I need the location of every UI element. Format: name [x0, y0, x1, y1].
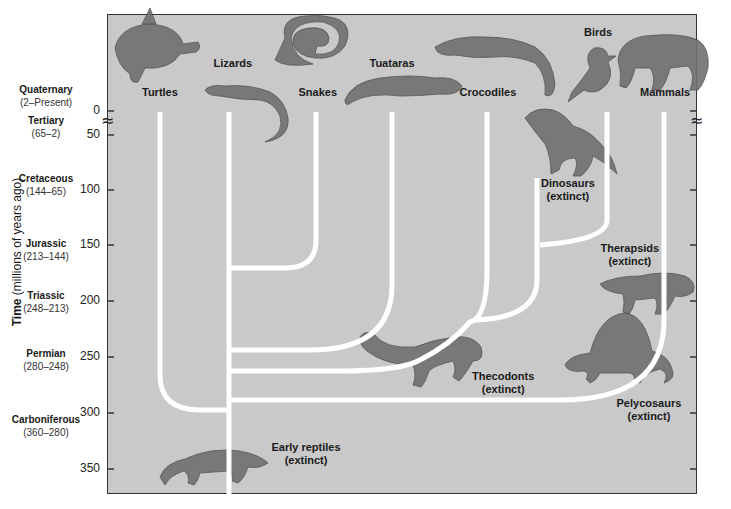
era-name: Cretaceous [0, 172, 92, 185]
extinct-note: (extinct) [601, 255, 660, 268]
snake-icon [275, 16, 348, 66]
taxon-name: Tuataras [370, 57, 415, 70]
era-label: Tertiary(65–2) [0, 114, 92, 140]
era-name: Tertiary [0, 114, 92, 127]
phylogenetic-tree [160, 112, 664, 494]
lizard-icon [205, 86, 288, 143]
era-label: Jurassic(213–144) [0, 237, 92, 263]
taxon-name: Turtles [142, 86, 178, 99]
branch-tuataras [229, 112, 392, 350]
taxon-name: Crocodiles [460, 86, 517, 99]
era-label: Quaternary(2–Present) [0, 83, 92, 109]
era-name: Triassic [0, 289, 92, 302]
taxon-name: Thecodonts [472, 370, 534, 383]
era-name: Quaternary [0, 83, 92, 96]
dimetrodon-icon [565, 313, 673, 383]
extinct-note: (extinct) [617, 410, 682, 423]
extinct-note: (extinct) [472, 383, 534, 396]
branch-turtles [160, 112, 229, 410]
branch-snakes [229, 112, 316, 268]
era-range: (65–2) [0, 127, 92, 140]
tiger-icon [618, 35, 708, 90]
taxon-label-tuataras: Tuataras [370, 57, 415, 70]
taxon-label-mammals: Mammals [640, 86, 690, 99]
turtle-icon [115, 8, 200, 82]
taxon-name: Pelycosaurs [617, 397, 682, 410]
era-range: (213–144) [0, 250, 92, 263]
taxon-label-turtles: Turtles [142, 86, 178, 99]
axis-tick-label: 350 [70, 461, 100, 475]
era-range: (144–65) [0, 185, 92, 198]
early-reptile-icon [160, 450, 268, 485]
taxon-label-pelycosaurs: Pelycosaurs(extinct) [617, 397, 682, 423]
branch-crocodiles [229, 112, 487, 371]
era-range: (280–248) [0, 360, 92, 373]
phylogeny-figure: ≈ ≈ Time (millions of years ago) 0501001… [0, 0, 731, 509]
tuatara-icon [345, 76, 462, 105]
extinct-note: (extinct) [272, 454, 341, 467]
tyrannosaur-icon [525, 109, 617, 176]
taxon-label-snakes: Snakes [299, 86, 338, 99]
taxon-label-dinosaurs: Dinosaurs(extinct) [541, 177, 595, 203]
taxon-label-therapsids: Therapsids(extinct) [601, 242, 660, 268]
taxon-name: Mammals [640, 86, 690, 99]
era-label: Cretaceous(144–65) [0, 172, 92, 198]
era-label: Permian(280–248) [0, 347, 92, 373]
taxon-label-crocodiles: Crocodiles [460, 86, 517, 99]
era-name: Jurassic [0, 237, 92, 250]
taxon-name: Dinosaurs [541, 177, 595, 190]
era-name: Permian [0, 347, 92, 360]
era-range: (2–Present) [0, 96, 92, 109]
extinct-note: (extinct) [541, 190, 595, 203]
era-label: Triassic(248–213) [0, 289, 92, 315]
taxon-label-thecodonts: Thecodonts(extinct) [472, 370, 534, 396]
taxon-name: Early reptiles [272, 441, 341, 454]
era-label: Carboniferous(360–280) [0, 413, 92, 439]
bird-icon [568, 48, 616, 102]
era-range: (248–213) [0, 302, 92, 315]
taxon-label-early-reptiles: Early reptiles(extinct) [272, 441, 341, 467]
taxon-name: Snakes [299, 86, 338, 99]
taxon-label-lizards: Lizards [214, 57, 253, 70]
era-name: Carboniferous [0, 413, 92, 426]
taxon-name: Therapsids [601, 242, 660, 255]
axis-break-left-icon: ≈ [101, 111, 114, 130]
taxon-label-birds: Birds [584, 26, 612, 39]
therapsid-icon [600, 273, 694, 314]
era-range: (360–280) [0, 426, 92, 439]
axis-break-right-icon: ≈ [690, 111, 703, 130]
taxon-name: Lizards [214, 57, 253, 70]
taxon-name: Birds [584, 26, 612, 39]
